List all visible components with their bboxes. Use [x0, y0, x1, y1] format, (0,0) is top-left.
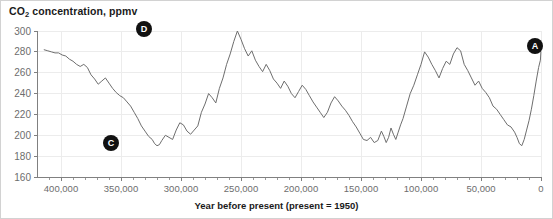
annotation-marker-d[interactable]: D	[136, 21, 152, 37]
x-tick-label: 0	[538, 183, 543, 194]
x-axis-title: Year before present (present = 1950)	[1, 200, 552, 211]
y-tick-labels-group: 160180200220240260280300	[14, 26, 31, 183]
chart-plot-area: 160180200220240260280300 400,000350,0003…	[1, 1, 553, 219]
annotation-marker-c[interactable]: C	[103, 135, 119, 151]
co2-concentration-chart-figure: CO2 concentration, ppmv 1601802002202402…	[0, 0, 553, 219]
marker-badge-label: A	[532, 41, 539, 51]
y-tick-label: 240	[14, 88, 31, 99]
x-tick-label: 150,000	[344, 183, 378, 194]
x-tick-label: 200,000	[284, 183, 318, 194]
x-tick-label: 350,000	[104, 183, 138, 194]
annotation-markers-group: ACD	[103, 21, 543, 151]
y-tick-label: 300	[14, 26, 31, 37]
x-tick-labels-group: 400,000350,000300,000250,000200,000150,0…	[44, 183, 544, 194]
marker-badge-label: D	[141, 24, 148, 34]
y-tick-label: 280	[14, 46, 31, 57]
gridlines-group	[37, 31, 541, 177]
marker-badge-label: C	[108, 138, 115, 148]
y-tick-label: 220	[14, 109, 31, 120]
x-tick-label: 100,000	[404, 183, 438, 194]
x-tick-label: 400,000	[44, 183, 78, 194]
x-tick-label: 250,000	[224, 183, 258, 194]
co2-series-line	[44, 31, 541, 146]
x-tick-label: 50,000	[466, 183, 495, 194]
y-tick-label: 180	[14, 151, 31, 162]
x-tick-label: 300,000	[164, 183, 198, 194]
y-tick-label: 200	[14, 130, 31, 141]
y-tick-label: 160	[14, 172, 31, 183]
y-tick-label: 260	[14, 67, 31, 78]
annotation-marker-a[interactable]: A	[527, 38, 543, 54]
